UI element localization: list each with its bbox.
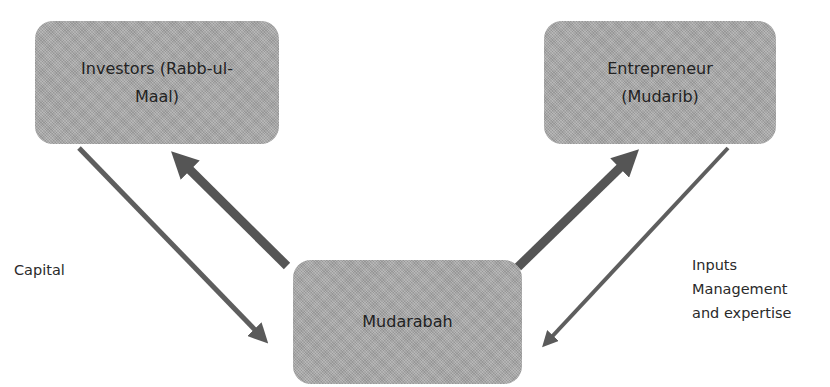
node-investors-line-1: Investors (Rabb-ul- (81, 59, 233, 78)
node-mudarabah-label: Mudarabah (352, 308, 462, 336)
node-entrepreneur-line-2: (Mudarib) (621, 87, 699, 106)
node-investors: Investors (Rabb-ul- Maal) (35, 21, 279, 144)
node-investors-label: Investors (Rabb-ul- Maal) (71, 55, 243, 111)
arrow-mudarabah-to-entrepreneur (518, 158, 630, 267)
node-investors-line-2: Maal) (135, 87, 179, 106)
edge-label-inputs: Inputs Management and expertise (692, 253, 791, 325)
node-entrepreneur-label: Entrepreneur (Mudarib) (597, 55, 723, 111)
node-entrepreneur: Entrepreneur (Mudarib) (544, 21, 776, 144)
node-entrepreneur-line-1: Entrepreneur (607, 59, 713, 78)
node-mudarabah: Mudarabah (293, 260, 522, 384)
arrow-capital (79, 148, 262, 337)
edge-label-capital: Capital (14, 258, 65, 282)
arrow-mudarabah-to-investors (180, 160, 287, 266)
